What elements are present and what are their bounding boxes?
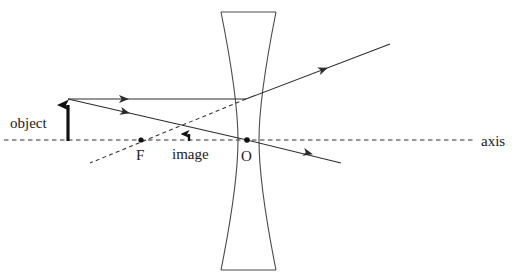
refracted-center-ray [247,140,341,163]
virtual-ray-backward-extension [90,99,246,163]
optical-center-marker [244,137,250,143]
diagram-canvas: object image F O axis [0,0,516,280]
axis-label: axis [481,133,505,149]
lens-right-surface [259,12,276,270]
object-label: object [10,115,47,131]
image-label: image [172,146,209,162]
refracted-parallel-ray [246,44,390,99]
incident-center-ray [68,99,247,140]
optical-center-label: O [241,148,252,164]
focal-point-marker [138,137,143,142]
optics-ray-diagram: object image F O axis [0,0,516,280]
ray-group [68,44,390,163]
lens-left-surface [221,12,238,270]
virtual-ray-group [90,99,246,163]
focal-point-label: F [136,147,144,163]
refracted-center-ray-arrow [296,150,312,154]
